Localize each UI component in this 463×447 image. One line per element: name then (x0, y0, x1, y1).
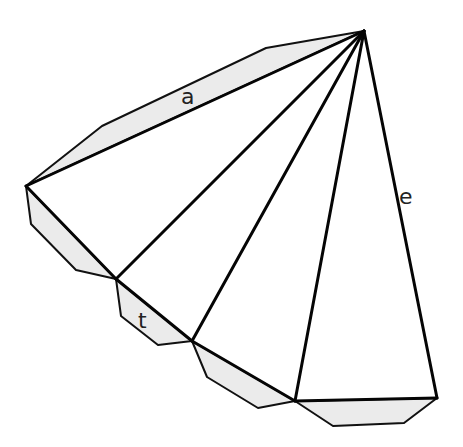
label-e: e (399, 184, 413, 209)
flap-bottom (295, 398, 437, 426)
label-t: t (138, 308, 147, 333)
label-a: a (181, 84, 194, 109)
pyramid-net-diagram: a e t (0, 0, 463, 447)
